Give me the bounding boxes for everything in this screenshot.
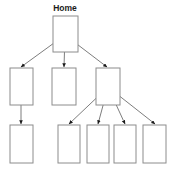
- node-box-grandchild-1[interactable]: [10, 125, 33, 163]
- diagram-canvas: Home: [0, 0, 180, 171]
- node-box-grandchild-4[interactable]: [114, 125, 136, 163]
- node-box-child-1[interactable]: [10, 68, 33, 105]
- node-box-grandchild-3[interactable]: [87, 125, 109, 163]
- node-label-home: Home: [53, 3, 77, 13]
- labels-layer: Home: [53, 3, 77, 13]
- nodes-layer: [10, 16, 166, 163]
- node-box-grandchild-2[interactable]: [58, 125, 80, 163]
- connectors-layer: [21, 35, 155, 124]
- node-box-child-2[interactable]: [52, 68, 76, 105]
- node-box-child-3[interactable]: [96, 68, 120, 105]
- node-box-grandchild-5[interactable]: [143, 125, 166, 163]
- node-box-home[interactable]: [53, 16, 78, 52]
- site-map-diagram: Home: [0, 0, 180, 171]
